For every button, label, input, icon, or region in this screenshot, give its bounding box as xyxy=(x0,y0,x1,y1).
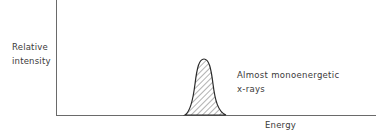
annotation-line2: x-rays xyxy=(237,82,339,96)
peak-annotation: Almost monoenergetic x-rays xyxy=(237,68,339,96)
annotation-line1: Almost monoenergetic xyxy=(237,68,339,82)
y-axis-label-line1: Relative xyxy=(12,40,51,54)
peak-area xyxy=(185,59,226,115)
y-axis-label-line2: intensity xyxy=(12,54,51,68)
spectrum-figure: Relative intensity Almost monoenergetic … xyxy=(0,0,388,138)
x-axis-label: Energy xyxy=(265,120,296,130)
y-axis-label: Relative intensity xyxy=(12,40,51,68)
